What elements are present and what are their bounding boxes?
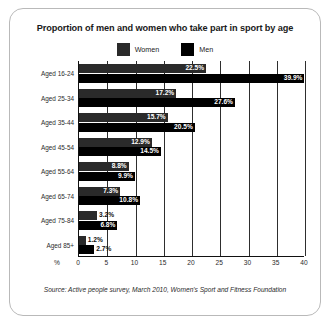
axis-tick-label: 10	[131, 259, 138, 266]
bar: 1.2%	[79, 236, 86, 245]
bar-value-label: 10.8%	[119, 197, 138, 204]
bar-value-label: 2.7%	[96, 246, 111, 253]
bar: 2.7%	[79, 245, 94, 254]
bar-value-label: 27.6%	[214, 99, 233, 106]
category-axis: Aged 16-24Aged 25-34Aged 35-44Aged 45-54…	[10, 61, 78, 257]
bar-value-label: 9.9%	[118, 173, 133, 180]
bar-value-label: 15.7%	[147, 114, 166, 121]
bar: 39.9%	[79, 74, 304, 83]
bar-value-label: 14.5%	[140, 148, 159, 155]
axis-tick-label: 35	[272, 259, 279, 266]
axis-tick-label: 15	[159, 259, 166, 266]
bar: 17.2%	[79, 89, 176, 98]
category-label: Aged 16-24	[10, 70, 74, 77]
bar-value-label: 39.9%	[284, 75, 303, 82]
legend-swatch-women	[117, 43, 130, 56]
bar: 27.6%	[79, 98, 235, 107]
chart-plot-area: Aged 16-24Aged 25-34Aged 35-44Aged 45-54…	[10, 61, 322, 279]
grid-line	[192, 61, 193, 256]
bars-container: 22.5%39.9%17.2%27.6%15.7%20.5%12.9%14.5%…	[78, 61, 304, 257]
bar-value-label: 12.9%	[131, 139, 150, 146]
axis-unit-label: %	[54, 259, 60, 266]
legend-item-men: Men	[181, 43, 213, 56]
bar: 8.8%	[79, 162, 129, 171]
bar-value-label: 22.5%	[185, 65, 204, 72]
axis-tick-label: 20	[187, 259, 194, 266]
category-label: Aged 25-34	[10, 94, 74, 101]
page-title: Proportion of men and women who take par…	[10, 23, 320, 33]
bar: 9.9%	[79, 172, 135, 181]
category-label: Aged 75-84	[10, 217, 74, 224]
legend-item-women: Women	[117, 43, 160, 56]
bar-value-label: 20.5%	[174, 124, 193, 131]
bar-value-label: 1.2%	[88, 237, 103, 244]
legend-label-women: Women	[135, 45, 160, 54]
axis-tick-label: 5	[104, 259, 108, 266]
category-label: Aged 35-44	[10, 119, 74, 126]
chart-card: Proportion of men and women who take par…	[9, 8, 321, 316]
axis-tick-label: 25	[216, 259, 223, 266]
bar: 7.3%	[79, 187, 120, 196]
bar-value-label: 8.8%	[112, 163, 127, 170]
grid-line	[220, 61, 221, 256]
bar: 6.8%	[79, 221, 117, 230]
category-label: Aged 45-54	[10, 143, 74, 150]
chart-legend: Women Men	[10, 43, 320, 56]
category-label: Aged 55-64	[10, 168, 74, 175]
grid-line	[277, 61, 278, 256]
bar: 20.5%	[79, 123, 195, 132]
bar: 3.2%	[79, 211, 97, 220]
grid-line	[305, 61, 306, 256]
value-axis-ticks: 0510152025303540	[78, 259, 304, 273]
category-label: Aged 65-74	[10, 192, 74, 199]
bar: 10.8%	[79, 196, 140, 205]
source-note: Source: Active people survey, March 2010…	[10, 286, 320, 293]
axis-tick-label: 0	[76, 259, 80, 266]
bar: 12.9%	[79, 138, 152, 147]
axis-tick-label: 40	[300, 259, 307, 266]
bar: 22.5%	[79, 64, 206, 73]
bar-value-label: 3.2%	[99, 212, 114, 219]
bar: 15.7%	[79, 113, 168, 122]
category-label: Aged 85+	[10, 241, 74, 248]
bar-value-label: 17.2%	[155, 90, 174, 97]
grid-line	[249, 61, 250, 256]
axis-tick-label: 30	[244, 259, 251, 266]
legend-label-men: Men	[199, 45, 213, 54]
legend-swatch-men	[181, 43, 194, 56]
bar-value-label: 6.8%	[100, 222, 115, 229]
bar-value-label: 7.3%	[103, 188, 118, 195]
bar: 14.5%	[79, 147, 161, 156]
